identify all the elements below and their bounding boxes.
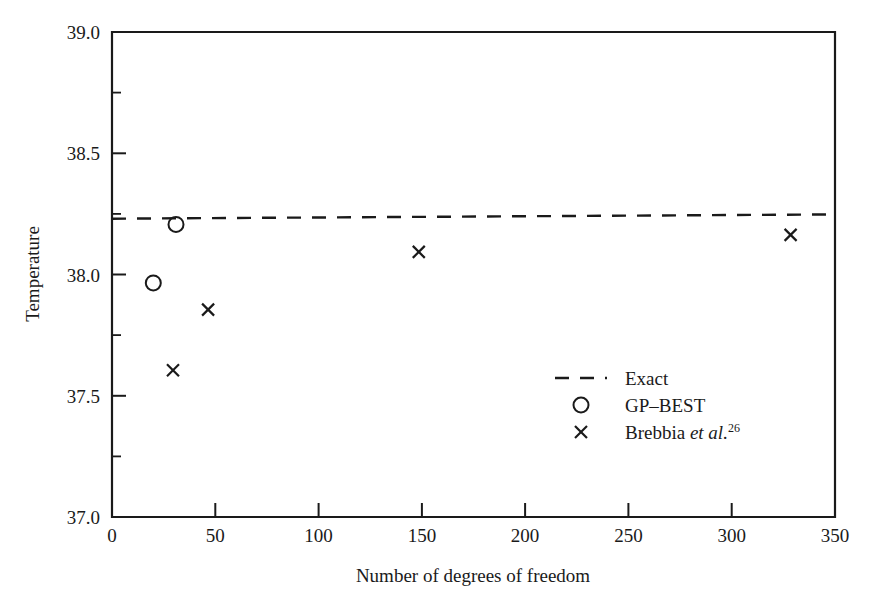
data-point-gpbest-1 xyxy=(146,275,161,290)
y-axis-major-ticks xyxy=(112,32,126,517)
series-exact xyxy=(112,214,835,218)
x-axis-major-ticks xyxy=(112,503,835,517)
y-tick-label-37-5: 37.5 xyxy=(67,386,100,407)
y-tick-label-38-0: 38.0 xyxy=(67,265,100,286)
legend-item-exact: Exact xyxy=(555,368,669,389)
x-axis-tick-labels: 0 50 100 150 200 250 300 350 xyxy=(107,525,849,546)
y-tick-label-37-0: 37.0 xyxy=(67,507,100,528)
series-brebbia xyxy=(167,229,797,376)
data-point-brebbia-3 xyxy=(413,246,425,258)
y-axis-title: Temperature xyxy=(22,226,43,322)
legend-label-brebbia-name: Brebbia xyxy=(625,422,690,443)
x-tick-label-250: 250 xyxy=(614,525,643,546)
data-point-brebbia-1 xyxy=(167,364,179,376)
exact-dashed-line xyxy=(112,214,835,218)
x-tick-label-200: 200 xyxy=(511,525,540,546)
series-gp-best xyxy=(146,217,184,291)
legend-label-exact: Exact xyxy=(625,368,669,389)
x-axis-title: Number of degrees of freedom xyxy=(356,565,590,586)
x-tick-label-100: 100 xyxy=(304,525,333,546)
legend-label-brebbia-ref: 26 xyxy=(728,421,740,435)
y-tick-label-39-0: 39.0 xyxy=(67,22,100,43)
x-tick-label-0: 0 xyxy=(107,525,117,546)
circle-icon xyxy=(574,398,589,413)
legend-item-brebbia: Brebbia et al.26 xyxy=(575,421,740,443)
chart-legend: Exact GP–BEST Brebbia et al.26 xyxy=(555,368,740,443)
data-point-brebbia-4 xyxy=(785,229,797,241)
data-point-brebbia-2 xyxy=(202,304,214,316)
scatter-plot: 39.0 38.5 38.0 37.5 37.0 0 50 100 150 20… xyxy=(0,0,874,613)
plot-frame xyxy=(112,32,835,517)
legend-label-gp-best: GP–BEST xyxy=(625,395,706,416)
x-tick-label-50: 50 xyxy=(206,525,225,546)
legend-label-brebbia-etal: et al. xyxy=(690,422,728,443)
axes-border xyxy=(112,32,835,517)
legend-item-gp-best: GP–BEST xyxy=(574,395,706,416)
cross-icon xyxy=(575,426,587,438)
chart-figure: 39.0 38.5 38.0 37.5 37.0 0 50 100 150 20… xyxy=(0,0,874,613)
y-tick-label-38-5: 38.5 xyxy=(67,143,100,164)
x-tick-label-150: 150 xyxy=(408,525,437,546)
y-axis-tick-labels: 39.0 38.5 38.0 37.5 37.0 xyxy=(67,22,100,528)
legend-label-brebbia: Brebbia et al.26 xyxy=(625,421,740,443)
x-tick-label-350: 350 xyxy=(821,525,850,546)
x-tick-label-300: 300 xyxy=(717,525,746,546)
